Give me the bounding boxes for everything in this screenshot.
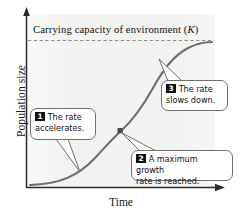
callout-1-line2: accelerates. bbox=[35, 123, 84, 133]
logistic-growth-figure: Carrying capacity of environment (K) Pop… bbox=[0, 0, 250, 216]
callout-rate-slows-down: 3The rate slows down. bbox=[161, 80, 228, 111]
callout-1-pointer bbox=[56, 139, 80, 172]
callout-3-pointer bbox=[159, 59, 182, 81]
callout-2-pointer bbox=[122, 133, 156, 151]
callout-1-line1: The rate bbox=[48, 112, 82, 122]
callout-1-badge: 1 bbox=[35, 112, 45, 121]
callout-maximum-growth-rate: 2A maximum growth rate is reached. bbox=[131, 150, 233, 181]
callout-3-line2: slows down. bbox=[166, 95, 215, 105]
callout-3-badge: 3 bbox=[166, 84, 176, 93]
callout-2-badge: 2 bbox=[136, 154, 146, 163]
callout-rate-accelerates: 1The rate accelerates. bbox=[30, 108, 96, 140]
callout-3-line1: The rate bbox=[179, 84, 213, 94]
callout-2-line2: rate is reached. bbox=[136, 176, 199, 186]
